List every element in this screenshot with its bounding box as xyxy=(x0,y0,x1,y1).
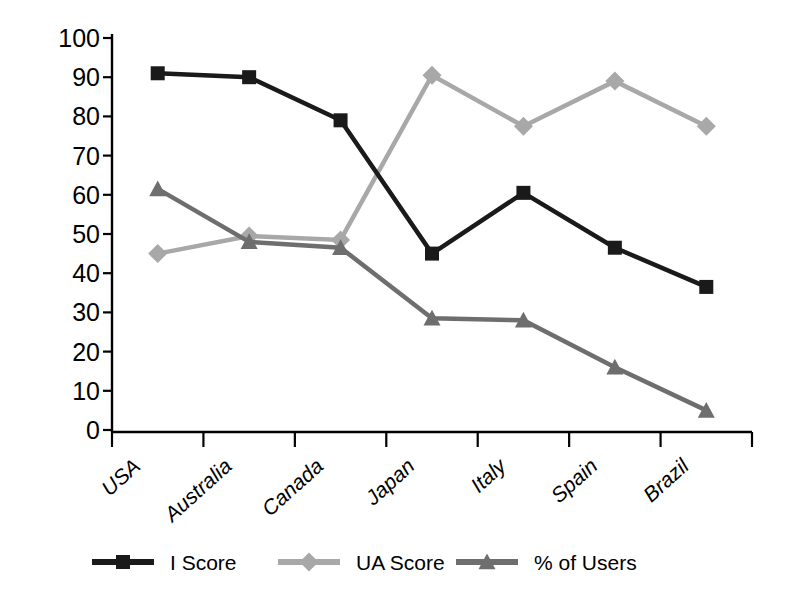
series-line xyxy=(158,75,707,253)
x-axis-category-labels: USAAustraliaCanadaJapanItalySpainBrazil xyxy=(97,453,694,527)
line-chart: 0102030405060708090100 USAAustraliaCanad… xyxy=(0,0,786,611)
data-point-marker-triangle xyxy=(149,180,166,196)
data-point-marker-square xyxy=(425,247,439,261)
y-axis-tick-label: 40 xyxy=(72,259,100,287)
y-axis-tick-label: 80 xyxy=(72,102,100,130)
x-axis-category-label: Brazil xyxy=(639,453,694,506)
y-axis-tick-label: 90 xyxy=(72,63,100,91)
legend-item-of-users[interactable]: % of Users xyxy=(456,551,637,574)
x-axis-category-label: Italy xyxy=(466,453,511,497)
chart-canvas: 0102030405060708090100 USAAustraliaCanad… xyxy=(0,0,786,611)
data-point-marker-square xyxy=(516,186,530,200)
data-point-marker-diamond xyxy=(697,117,716,136)
series-i-score xyxy=(151,66,714,294)
legend-label: I Score xyxy=(170,551,237,574)
y-axis xyxy=(103,34,112,432)
data-point-marker-square xyxy=(151,66,165,80)
x-axis-category-label: Australia xyxy=(158,454,236,527)
series-line xyxy=(158,189,707,410)
legend-label: % of Users xyxy=(534,551,637,574)
y-axis-tick-marks xyxy=(103,38,112,430)
y-axis-tick-label: 0 xyxy=(86,416,100,444)
x-axis-category-label: Japan xyxy=(360,454,419,510)
data-point-marker-diamond xyxy=(514,117,533,136)
data-point-marker-square xyxy=(242,70,256,84)
x-axis-category-label: Canada xyxy=(257,454,327,520)
y-axis-tick-label: 30 xyxy=(72,298,100,326)
y-axis-tick-labels: 0102030405060708090100 xyxy=(58,24,100,444)
series-of-users xyxy=(149,180,715,417)
data-point-marker-diamond xyxy=(148,244,167,263)
y-axis-tick-label: 60 xyxy=(72,181,100,209)
y-axis-tick-label: 20 xyxy=(72,338,100,366)
y-axis-tick-label: 70 xyxy=(72,142,100,170)
data-point-marker-diamond xyxy=(300,553,319,572)
x-axis-category-label: Spain xyxy=(546,454,601,507)
y-axis-tick-label: 10 xyxy=(72,377,100,405)
data-point-marker-square xyxy=(608,241,622,255)
legend-item-i-score[interactable]: I Score xyxy=(92,551,237,574)
data-point-marker-diamond xyxy=(605,72,624,91)
chart-legend: I ScoreUA Score% of Users xyxy=(92,551,637,574)
y-axis-tick-label: 100 xyxy=(58,24,100,52)
series-layer xyxy=(148,66,716,418)
data-point-marker-square xyxy=(116,555,130,569)
legend-label: UA Score xyxy=(356,551,445,574)
x-axis-category-label: USA xyxy=(97,454,144,500)
data-point-marker-square xyxy=(699,280,713,294)
data-point-marker-square xyxy=(334,113,348,127)
y-axis-tick-label: 50 xyxy=(72,220,100,248)
x-axis xyxy=(112,432,752,447)
x-axis-tick-marks xyxy=(112,432,752,447)
legend-item-ua-score[interactable]: UA Score xyxy=(278,551,445,574)
data-point-marker-diamond xyxy=(423,66,442,85)
